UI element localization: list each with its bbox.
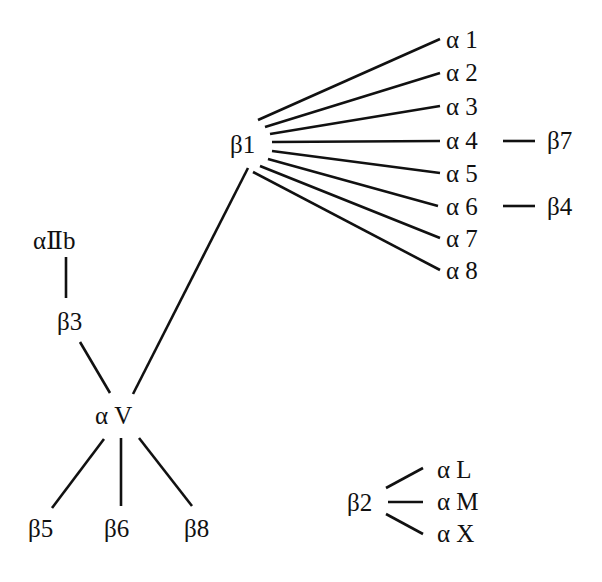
node-alphaM: α M <box>437 489 479 514</box>
edge-b1-aV <box>133 168 248 394</box>
node-beta8: β8 <box>184 516 209 541</box>
edge-b2-aL <box>386 468 423 488</box>
edge-b2-aX <box>386 514 423 534</box>
node-alpha4: α 4 <box>446 128 478 153</box>
node-beta6: β6 <box>104 516 129 541</box>
node-alpha1: α 1 <box>446 27 478 52</box>
edge-b1-a4 <box>272 141 440 142</box>
edge-b1-a5 <box>272 151 440 173</box>
node-beta3: β3 <box>57 309 82 334</box>
node-alphaV: α V <box>95 403 132 428</box>
integrin-diagram: β1 α 1 α 2 α 3 α 4 α 5 α 6 α 7 α 8 β7 β4… <box>0 0 602 582</box>
node-alphaL: α L <box>437 457 472 482</box>
edge-b1-a2 <box>265 73 440 127</box>
node-alpha2: α 2 <box>446 60 478 85</box>
connector-lines <box>0 0 602 582</box>
node-alphaIIb: αⅡb <box>33 228 76 253</box>
node-alpha3: α 3 <box>446 94 478 119</box>
node-beta2: β2 <box>347 490 372 515</box>
node-beta5: β5 <box>28 516 53 541</box>
node-beta7: β7 <box>547 128 572 153</box>
node-beta4: β4 <box>547 194 572 219</box>
node-alpha5: α 5 <box>446 161 478 186</box>
node-alpha6: α 6 <box>446 194 478 219</box>
edge-b1-a7 <box>260 166 440 238</box>
edge-aV-b8 <box>139 438 192 506</box>
edge-aV-b5 <box>52 439 104 508</box>
node-alphaX: α X <box>437 521 474 546</box>
edge-b1-a1 <box>258 39 440 120</box>
edge-b3-aV <box>80 342 110 393</box>
node-beta1: β1 <box>230 132 255 157</box>
node-alpha8: α 8 <box>446 258 478 283</box>
node-alpha7: α 7 <box>446 226 478 251</box>
edge-b1-a6 <box>268 159 438 206</box>
edge-b1-a8 <box>253 172 440 270</box>
edge-b1-a3 <box>270 106 440 134</box>
